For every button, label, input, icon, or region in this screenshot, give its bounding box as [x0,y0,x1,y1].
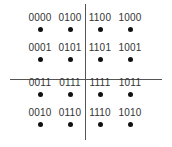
symbol-dot [128,27,133,32]
symbol-dot [68,122,73,127]
symbol-dot [98,27,103,32]
symbol-dot [98,57,103,62]
symbol-dot [128,92,133,97]
symbol-dot [38,57,43,62]
symbol-dot [38,122,43,127]
symbol-label: 1000 [110,13,150,23]
symbol-dot [68,27,73,32]
symbol-dot [38,92,43,97]
symbol-dot [98,122,103,127]
symbol-label: 1001 [110,43,150,53]
symbol-dot [68,92,73,97]
symbol-dot [128,122,133,127]
symbol-label: 1011 [110,78,150,88]
constellation-point: 1011 [110,78,150,97]
symbol-dot [68,57,73,62]
constellation-point: 1001 [110,43,150,62]
symbol-dot [38,27,43,32]
constellation-point: 1010 [110,108,150,127]
symbol-dot [128,57,133,62]
symbol-dot [98,92,103,97]
symbol-label: 1010 [110,108,150,118]
constellation-point: 1000 [110,13,150,32]
